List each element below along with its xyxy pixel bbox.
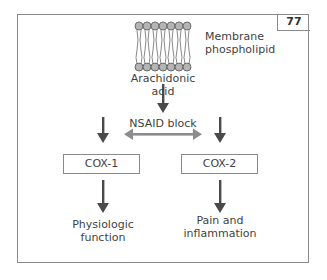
physiologic-line2: function xyxy=(68,231,138,244)
physiologic-function-label: Physiologic function xyxy=(68,218,138,244)
arrow-down-icon xyxy=(214,180,226,213)
arrow-down-icon xyxy=(214,117,226,143)
arrow-down-icon xyxy=(97,117,109,143)
membrane-label-line1: Membrane xyxy=(205,30,275,43)
membrane-label-line2: phospholipid xyxy=(205,43,275,56)
diagram-graphics xyxy=(0,0,327,280)
arrow-down-icon xyxy=(97,180,109,213)
arachidonic-acid-label: Arachidonic acid xyxy=(118,72,208,98)
membrane-label: Membrane phospholipid xyxy=(205,30,275,56)
cox2-box: COX-2 xyxy=(181,154,258,174)
pain-inflammation-label: Pain and inflammation xyxy=(180,214,260,240)
pain-line2: inflammation xyxy=(180,227,260,240)
double-arrow-icon xyxy=(124,129,202,141)
phospholipid-bilayer-icon xyxy=(135,22,191,71)
nsaid-block-label: NSAID block xyxy=(128,117,198,130)
pain-line1: Pain and xyxy=(180,214,260,227)
cox1-box: COX-1 xyxy=(63,154,140,174)
physiologic-line1: Physiologic xyxy=(68,218,138,231)
